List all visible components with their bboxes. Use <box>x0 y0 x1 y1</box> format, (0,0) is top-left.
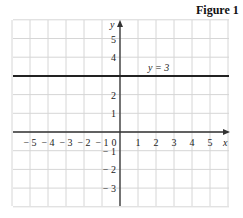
x-tick-label: 1 <box>136 137 141 148</box>
y-tick-label: 2 <box>111 90 116 101</box>
y-tick-label: − 3 <box>103 183 116 194</box>
x-axis-arrow-icon <box>223 129 230 135</box>
x-axis-label: x <box>222 137 228 148</box>
y-tick-label: 1 <box>111 108 116 119</box>
y-tick-label: 4 <box>111 52 116 63</box>
y-axis-arrow-icon <box>117 20 123 27</box>
x-tick-label: 2 <box>154 137 159 148</box>
x-tick-label: − 5 <box>23 137 36 148</box>
y-tick-label: − 2 <box>103 164 116 175</box>
x-tick-label: 5 <box>208 137 213 148</box>
y-tick-label: 5 <box>111 34 116 45</box>
x-tick-label: 4 <box>190 137 195 148</box>
x-tick-label: 3 <box>172 137 177 148</box>
x-tick-label: − 3 <box>59 137 72 148</box>
y-axis-label: y <box>109 19 115 30</box>
x-tick-label: − 2 <box>77 137 90 148</box>
x-tick-label: − 4 <box>41 137 54 148</box>
line-label: y = 3 <box>147 62 169 73</box>
coordinate-plane: − 5− 4− 3− 2− 10123455421− 1− 2− 3 y x y… <box>0 0 243 218</box>
y-tick-label: − 1 <box>103 146 116 157</box>
